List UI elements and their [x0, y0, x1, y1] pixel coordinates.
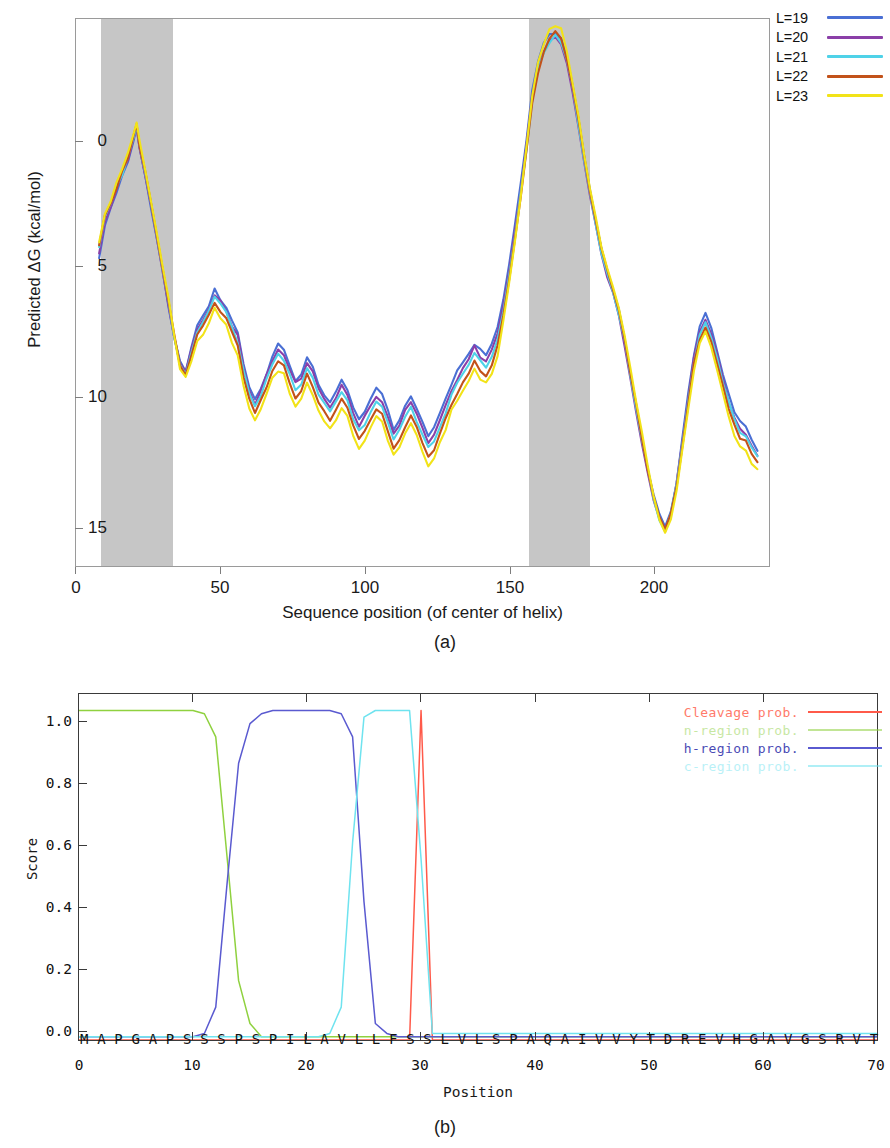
- legend-item: L=19: [776, 8, 888, 28]
- panel-a-x-axis-label: Sequence position (of center of helix): [75, 603, 770, 623]
- x-tick-label-100: 100: [351, 578, 379, 598]
- panel-b-y-axis-label: Score: [24, 799, 40, 919]
- legend-swatch-c-region: [808, 765, 882, 767]
- legend-label: h-region prob.: [684, 741, 799, 756]
- legend-swatch-l19: [827, 16, 883, 19]
- panel-a-lines: [76, 19, 769, 566]
- legend-swatch-l20: [827, 36, 883, 39]
- legend-swatch-l23: [827, 94, 883, 97]
- legend-swatch-cleavage: [808, 711, 882, 713]
- legend-label: c-region prob.: [684, 759, 799, 774]
- x-tickmark-top: [649, 693, 650, 702]
- legend-swatch-l21: [827, 55, 883, 58]
- legend-swatch-h-region: [808, 747, 882, 749]
- x-tickmark-top: [763, 693, 764, 702]
- panel-b: 1.0 0.8 0.6 0.4 0.2 0.0 M A P G A P S S …: [0, 665, 890, 1148]
- legend-item: n-region prob.: [592, 721, 882, 739]
- panel-a-caption: (a): [0, 632, 890, 653]
- x-tickmark: [654, 567, 655, 574]
- x-tickmark-top: [306, 693, 307, 702]
- legend-item: Cleavage prob.: [592, 703, 882, 721]
- x-tickmark-top: [535, 693, 536, 702]
- x-tickmark-top: [420, 693, 421, 702]
- x-tick-label-200: 200: [640, 578, 668, 598]
- x-tick-label-60: 60: [754, 1057, 771, 1073]
- legend-label: L=23: [776, 88, 822, 104]
- x-tickmark: [365, 567, 366, 574]
- x-tickmark-top: [78, 693, 79, 702]
- x-tick-label-50: 50: [211, 578, 230, 598]
- legend-label: L=19: [776, 10, 822, 26]
- x-tickmark: [220, 567, 221, 574]
- panel-b-x-axis-label: Position: [78, 1084, 878, 1100]
- legend-item: c-region prob.: [592, 757, 882, 775]
- amino-acid-sequence: M A P G A P S S S P S P I L A V L L F S …: [80, 1026, 880, 1052]
- y-tickmark: [78, 845, 87, 846]
- sequence-text: M A P G A P S S S P S P I L A V L L F S …: [80, 1031, 880, 1047]
- panel-a-y-axis-label: Predicted ΔG (kcal/mol): [25, 140, 44, 380]
- series-l-22: [99, 31, 757, 529]
- legend-item: L=21: [776, 47, 888, 67]
- legend-label: L=21: [776, 49, 822, 65]
- panel-a: 0 5 10 15 0 50 100 150 200 Predicted ΔG …: [0, 0, 890, 665]
- legend-label: L=20: [776, 29, 822, 45]
- y-tick-label-15: 15: [47, 528, 107, 548]
- x-tick-label-150: 150: [496, 578, 524, 598]
- legend-item: L=23: [776, 86, 888, 106]
- panel-b-legend: Cleavage prob. n-region prob. h-region p…: [592, 703, 882, 775]
- x-tick-label-50: 50: [640, 1057, 657, 1073]
- legend-swatch-l22: [827, 75, 883, 78]
- y-tick-label-0-0: 0.0: [2, 1031, 72, 1047]
- x-tick-label-20: 20: [297, 1057, 314, 1073]
- y-tickmark: [78, 783, 87, 784]
- x-tickmark-top: [192, 693, 193, 702]
- legend-label: n-region prob.: [684, 723, 799, 738]
- y-tick-label-10: 10: [47, 397, 107, 417]
- x-tick-label-30: 30: [411, 1057, 428, 1073]
- y-tickmark: [78, 969, 87, 970]
- legend-item: L=22: [776, 67, 888, 87]
- x-tick-label-0: 0: [75, 1057, 84, 1073]
- figure-container: 0 5 10 15 0 50 100 150 200 Predicted ΔG …: [0, 0, 890, 1148]
- y-tick-label-0: 0: [47, 141, 107, 161]
- panel-b-caption: (b): [0, 1117, 890, 1138]
- legend-label: L=22: [776, 68, 822, 84]
- legend-item: L=20: [776, 28, 888, 48]
- x-tick-label-40: 40: [526, 1057, 543, 1073]
- x-tick-label-0: 0: [71, 578, 80, 598]
- legend-swatch-n-region: [808, 729, 882, 731]
- panel-a-plot-frame: [75, 18, 770, 567]
- panel-a-legend: L=19 L=20 L=21 L=22 L=23: [776, 8, 888, 106]
- x-tickmark: [75, 567, 76, 574]
- legend-label: Cleavage prob.: [684, 705, 799, 720]
- y-tick-label-1-0: 1.0: [2, 721, 72, 737]
- y-tickmark: [78, 907, 87, 908]
- y-tick-label-0-2: 0.2: [2, 969, 72, 985]
- legend-item: h-region prob.: [592, 739, 882, 757]
- x-tick-label-70: 70: [867, 1057, 884, 1073]
- y-tickmark: [78, 721, 87, 722]
- y-tick-label-0-8: 0.8: [2, 783, 72, 799]
- x-tickmark: [510, 567, 511, 574]
- x-tick-label-10: 10: [183, 1057, 200, 1073]
- y-tick-label-5: 5: [47, 266, 107, 286]
- series-l-19: [99, 34, 757, 527]
